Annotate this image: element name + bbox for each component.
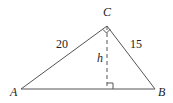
- vertex-label-c: C: [103, 5, 112, 19]
- side-label-ac: 20: [56, 37, 68, 51]
- vertex-label-a: A: [9, 85, 18, 99]
- right-angle-foot-marker: [107, 83, 113, 89]
- vertex-label-b: B: [158, 85, 166, 99]
- side-label-cb: 15: [130, 37, 142, 51]
- triangle-diagram: C A B 20 15 h: [0, 0, 173, 103]
- altitude-label-h: h: [97, 51, 103, 65]
- triangle-abc: [21, 26, 155, 89]
